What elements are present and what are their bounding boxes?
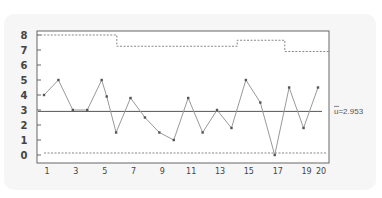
data-point bbox=[302, 127, 304, 129]
x-tick-label: 3 bbox=[73, 167, 78, 176]
y-tick-label: 6 bbox=[21, 60, 28, 71]
data-point bbox=[230, 127, 232, 129]
data-point bbox=[43, 94, 45, 96]
data-point bbox=[259, 101, 261, 103]
x-tick-label: 15 bbox=[244, 167, 254, 176]
data-point bbox=[100, 79, 102, 81]
y-tick-label: 2 bbox=[21, 120, 28, 131]
x-tick-label: 13 bbox=[215, 167, 225, 176]
data-point bbox=[317, 86, 319, 88]
data-point bbox=[288, 86, 290, 88]
x-tick-label: 9 bbox=[160, 167, 165, 176]
data-point bbox=[173, 139, 175, 141]
data-point bbox=[144, 116, 146, 118]
y-tick-label: 3 bbox=[21, 105, 28, 116]
data-point bbox=[115, 131, 117, 133]
x-tick-label: 5 bbox=[102, 167, 107, 176]
y-tick-label: 8 bbox=[21, 30, 28, 41]
svg-text:u=2.953: u=2.953 bbox=[334, 107, 364, 116]
x-axis: 13579111315171920 bbox=[44, 167, 326, 176]
data-point bbox=[86, 109, 88, 111]
y-tick-label: 1 bbox=[21, 135, 28, 146]
data-point bbox=[57, 79, 59, 81]
x-tick-label: 17 bbox=[273, 167, 283, 176]
x-tick-label: 11 bbox=[186, 167, 196, 176]
x-tick-label: 20 bbox=[316, 167, 326, 176]
u-control-chart: 012345678 13579111315171920 u=2.953 bbox=[0, 0, 382, 198]
x-tick-label: 1 bbox=[44, 167, 49, 176]
data-point bbox=[129, 97, 131, 99]
center-line-label: u=2.953 bbox=[334, 106, 364, 116]
data-point bbox=[216, 109, 218, 111]
y-tick-label: 5 bbox=[21, 75, 28, 86]
data-point bbox=[274, 154, 276, 156]
data-point bbox=[106, 95, 108, 97]
data-point bbox=[245, 79, 247, 81]
data-point bbox=[201, 131, 203, 133]
y-tick-label: 0 bbox=[21, 150, 28, 161]
data-point bbox=[158, 131, 160, 133]
plot-frame bbox=[37, 31, 329, 163]
y-tick-label: 7 bbox=[21, 45, 28, 56]
data-point bbox=[187, 97, 189, 99]
y-tick-label: 4 bbox=[21, 90, 28, 101]
x-tick-label: 7 bbox=[131, 167, 136, 176]
data-point bbox=[72, 109, 74, 111]
x-tick-label: 19 bbox=[301, 167, 311, 176]
